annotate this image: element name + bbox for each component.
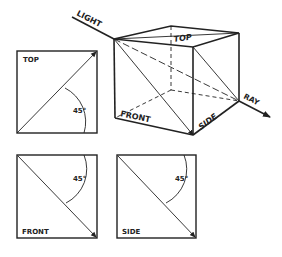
side-view-label: SIDE (122, 228, 140, 236)
top-view: TOP 45° (17, 51, 97, 133)
light-ray-diagram: LIGHT RAY TOP FRONT SIDE (0, 0, 282, 257)
side-view-angle: 45° (175, 175, 188, 183)
cube-figure: LIGHT RAY TOP FRONT SIDE (72, 9, 270, 135)
ray-diagonal (114, 39, 239, 101)
front-view-label: FRONT (22, 228, 49, 236)
cube-side-label: SIDE (197, 112, 219, 132)
cube-top-label: TOP (173, 33, 192, 44)
side-view: SIDE 45° (117, 155, 196, 238)
top-view-angle: 45° (73, 107, 86, 115)
top-view-label: TOP (23, 56, 39, 64)
front-view: FRONT 45° (17, 155, 97, 238)
ray-label: RAY (242, 92, 261, 108)
front-view-angle: 45° (73, 175, 86, 183)
